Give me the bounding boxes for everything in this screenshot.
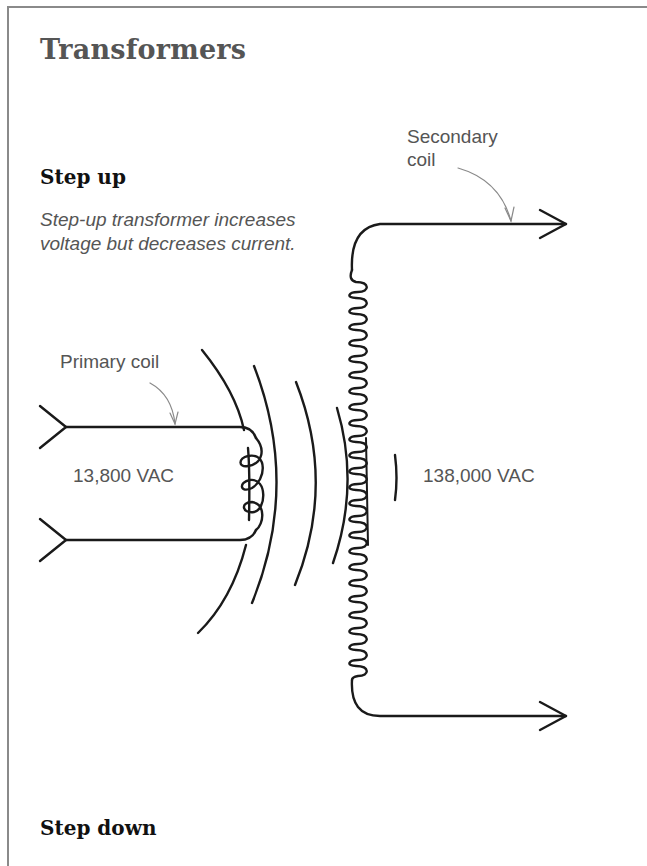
primary-voltage-label: 13,800 VAC: [73, 464, 174, 487]
flux-arc-1-mid: [248, 448, 249, 520]
flux-arc-4: [333, 408, 348, 563]
step-down-heading: Step down: [40, 816, 156, 840]
secondary-leader-line: [458, 168, 511, 221]
primary-coil: [241, 438, 264, 530]
secondary-wire-bottom: [352, 680, 566, 716]
flux-arc-3: [295, 382, 316, 585]
secondary-coil-label: Secondary coil: [407, 125, 517, 171]
primary-wire-bottom: [66, 530, 256, 540]
primary-leader-line: [150, 383, 175, 424]
primary-input-arrow-top-icon: [40, 406, 66, 448]
secondary-coil: [349, 270, 366, 680]
flux-arc-5: [395, 455, 397, 500]
secondary-voltage-label: 138,000 VAC: [423, 464, 535, 487]
primary-input-arrow-bottom-icon: [40, 519, 66, 561]
primary-coil-label: Primary coil: [60, 350, 159, 373]
flux-arc-1-top: [202, 350, 244, 430]
flux-arc-1-bottom: [198, 545, 246, 633]
primary-wire-top: [66, 427, 256, 438]
secondary-wire-top: [352, 224, 566, 270]
